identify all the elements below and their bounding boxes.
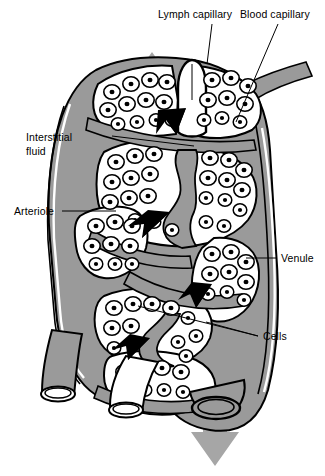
label-venule: Venule	[281, 252, 314, 264]
label-arteriole: Arteriole	[14, 205, 54, 217]
label-lymph-capillary: Lymph capillary	[158, 8, 232, 20]
lymph-capillary-diagram: Lymph capillary Blood capillary Intersti…	[0, 0, 325, 476]
arteriole-vessel	[41, 330, 82, 402]
diagram-canvas	[0, 0, 325, 476]
label-cells: Cells	[263, 330, 287, 342]
label-blood-capillary: Blood capillary	[240, 8, 310, 20]
label-interstitial-fluid-line1: Interstitial	[26, 131, 72, 143]
label-interstitial-fluid-line2: fluid	[26, 145, 46, 157]
leader-lymph-capillary	[207, 24, 212, 64]
